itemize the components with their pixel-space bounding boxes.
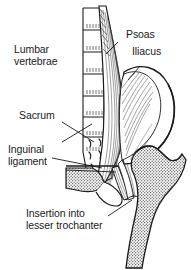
leader-sacrum-2: [62, 124, 92, 142]
label-lumbar-vertebrae: Lumbar vertebrae: [14, 44, 57, 67]
anatomy-figure: Lumbar vertebrae Psoas Iliacus Sacrum In…: [0, 0, 191, 270]
label-inguinal-ligament: Inguinal ligament: [8, 144, 47, 167]
label-iliacus: Iliacus: [132, 46, 161, 58]
label-sacrum: Sacrum: [19, 110, 55, 122]
label-psoas: Psoas: [126, 29, 155, 41]
femur-bone: [126, 146, 186, 268]
label-insertion-lesser-trochanter: Insertion into lesser trochanter: [26, 208, 103, 231]
